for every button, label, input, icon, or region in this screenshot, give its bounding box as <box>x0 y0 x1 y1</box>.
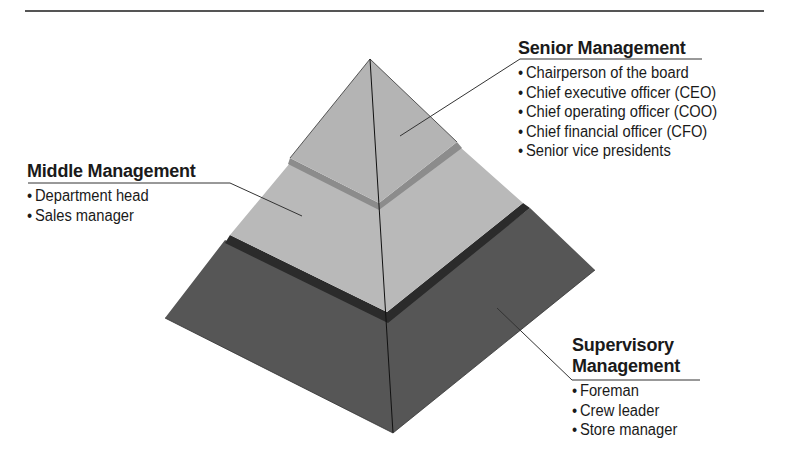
senior-list: Chairperson of the board Chief executive… <box>518 63 734 161</box>
list-item: Chief executive officer (CEO) <box>518 83 717 103</box>
supervisory-title-line1: Supervisory <box>572 335 686 356</box>
list-item: Crew leader <box>572 401 677 421</box>
middle-management-label: Middle Management Department head Sales … <box>27 161 196 225</box>
list-item: Chairperson of the board <box>518 63 717 83</box>
list-item: Chief financial officer (CFO) <box>518 122 717 142</box>
list-item: Department head <box>27 186 182 206</box>
middle-title: Middle Management <box>27 161 196 182</box>
list-item: Chief operating officer (COO) <box>518 102 717 122</box>
list-item: Store manager <box>572 420 677 440</box>
list-item: Foreman <box>572 381 677 401</box>
supervisory-list: Foreman Crew leader Store manager <box>572 381 686 440</box>
senior-title: Senior Management <box>518 38 734 59</box>
list-item: Senior vice presidents <box>518 141 717 161</box>
list-item: Sales manager <box>27 206 182 226</box>
middle-list: Department head Sales manager <box>27 186 196 225</box>
supervisory-management-label: Supervisory Management Foreman Crew lead… <box>572 335 686 440</box>
supervisory-title-line2: Management <box>572 356 686 377</box>
senior-management-label: Senior Management Chairperson of the boa… <box>518 38 734 161</box>
